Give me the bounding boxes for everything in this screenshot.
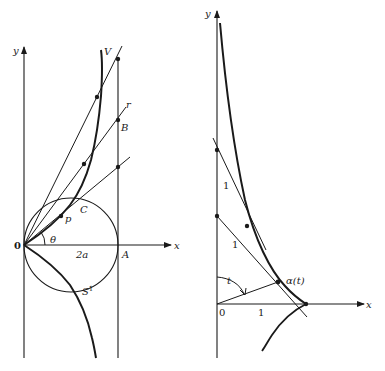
cissoid-lower xyxy=(24,245,96,358)
ray-r xyxy=(24,107,126,245)
label-a: A xyxy=(121,249,129,260)
left-y-label: y xyxy=(12,45,19,56)
point-y-1 xyxy=(215,148,219,152)
tangent-1 xyxy=(213,138,266,250)
point-top xyxy=(116,57,120,61)
point-curve-1 xyxy=(245,224,249,228)
right-x-label: x xyxy=(366,299,372,310)
left-figure: y x 0 V r B C p θ 2a A S1 xyxy=(12,45,180,358)
label-r: r xyxy=(126,99,132,110)
tangent-2 xyxy=(217,216,307,317)
label-alpha-t: α(t) xyxy=(286,275,305,286)
label-s1: S1 xyxy=(82,285,93,297)
label-c: C xyxy=(80,204,88,215)
label-theta: θ xyxy=(50,234,56,245)
label-p: p xyxy=(65,213,72,224)
point-on-curve-1 xyxy=(82,162,86,166)
label-2a: 2a xyxy=(75,249,88,260)
segment-label-1: 1 xyxy=(223,180,229,191)
theta-arc xyxy=(41,232,45,245)
segment-label-2: 1 xyxy=(232,239,238,250)
point-b xyxy=(116,118,120,122)
label-v: V xyxy=(104,46,113,57)
right-y-label: y xyxy=(204,8,211,19)
point-p xyxy=(59,214,63,218)
point-alpha-t xyxy=(276,280,281,285)
label-b: B xyxy=(120,122,128,133)
right-tick-1-label: 1 xyxy=(258,307,264,318)
right-figure: y x 0 1 1 1 t α(t) xyxy=(204,8,372,358)
left-x-label: x xyxy=(174,240,180,251)
point-on-curve-2 xyxy=(95,95,99,99)
point-cusp xyxy=(304,302,308,306)
right-origin-label: 0 xyxy=(219,307,225,318)
point-line-3 xyxy=(116,165,120,169)
tractrix-lower xyxy=(262,304,306,351)
point-y-2 xyxy=(215,214,219,218)
left-origin-label: 0 xyxy=(14,240,21,251)
ray-3 xyxy=(24,157,130,245)
diagram-canvas: y x 0 V r B C p θ 2a A S1 xyxy=(0,0,385,371)
tractrix-upper xyxy=(220,23,306,304)
